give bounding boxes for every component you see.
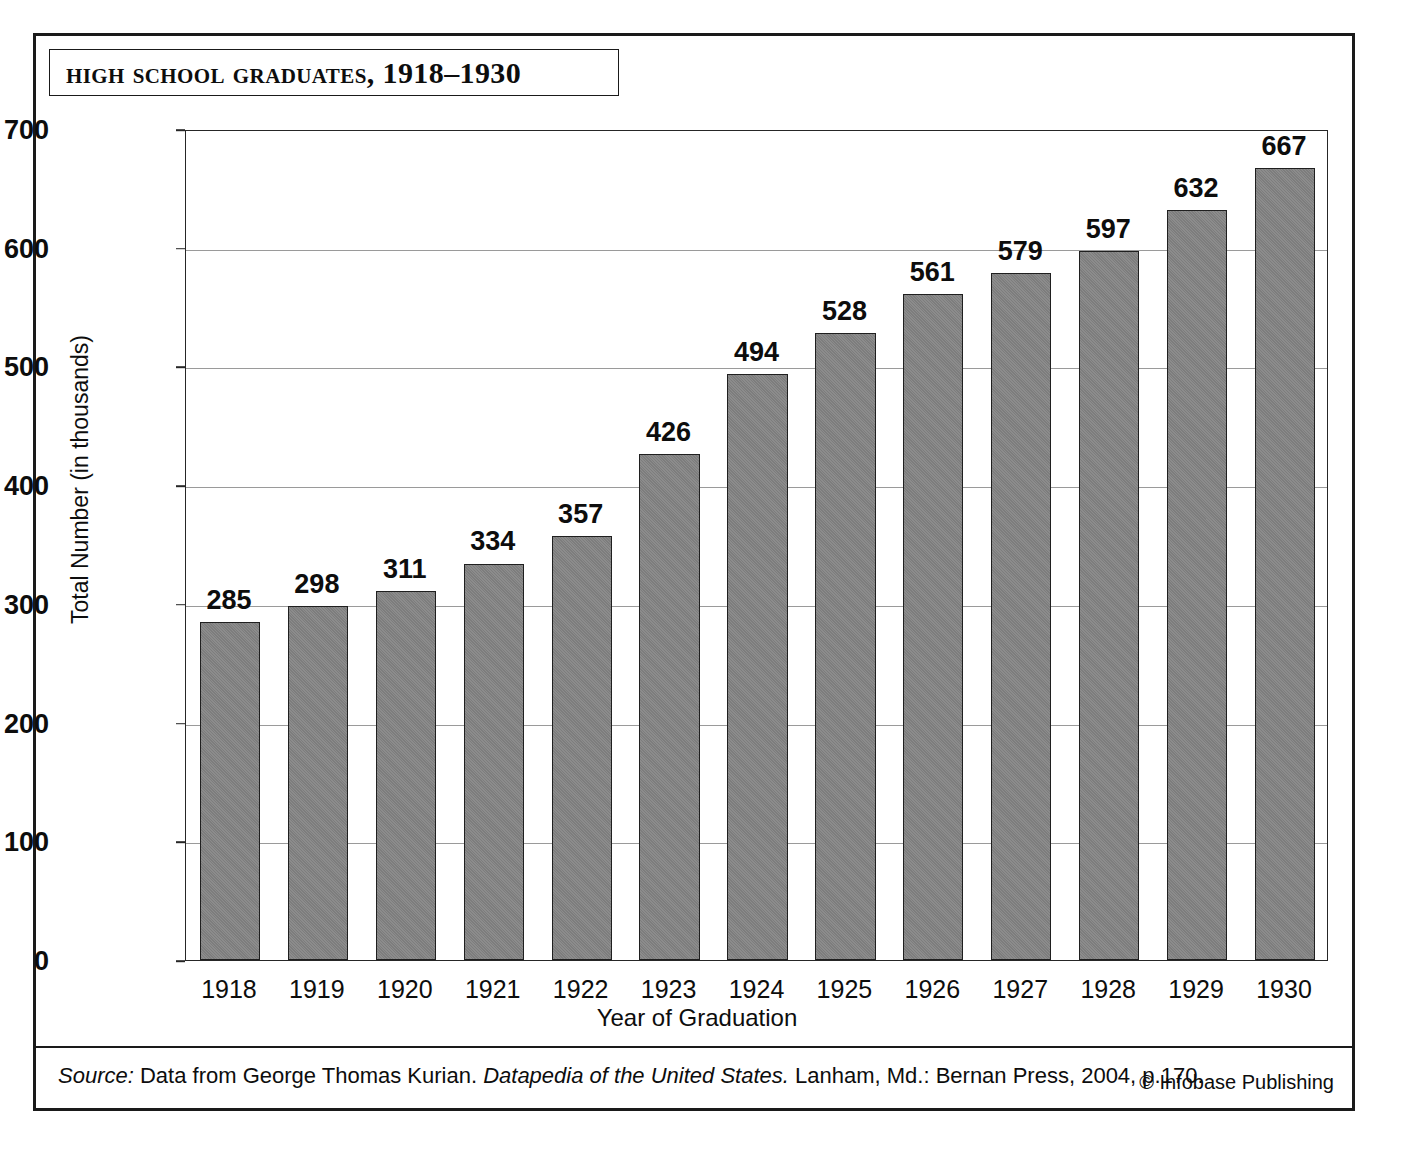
x-tick-label-1930: 1930 xyxy=(1224,975,1344,1004)
gridline xyxy=(186,368,1327,369)
y-tick-label-100: 100 xyxy=(0,827,49,858)
source-book-title: Datapedia of the United States. xyxy=(483,1063,789,1088)
bar-1926[interactable] xyxy=(903,294,963,960)
bar-1919[interactable] xyxy=(288,606,348,960)
y-axis-title: Total Number (in thousands) xyxy=(67,280,94,680)
bar-value-1922: 357 xyxy=(521,499,641,530)
y-tick-mark-700 xyxy=(176,129,185,131)
source-note: Source: Data from George Thomas Kurian. … xyxy=(58,1063,1204,1089)
bar-1923[interactable] xyxy=(639,454,699,960)
figure-frame: High School Graduates, 1918–1930 Total N… xyxy=(33,33,1355,1111)
bar-value-1921: 334 xyxy=(433,526,553,557)
bar-1929[interactable] xyxy=(1167,210,1227,960)
page-title: High School Graduates, 1918–1930 xyxy=(66,56,521,90)
bar-1924[interactable] xyxy=(727,374,787,960)
y-tick-label-300: 300 xyxy=(0,589,49,620)
y-tick-label-200: 200 xyxy=(0,708,49,739)
bar-1920[interactable] xyxy=(376,591,436,960)
y-tick-mark-200 xyxy=(176,723,185,725)
bar-1930[interactable] xyxy=(1255,168,1315,960)
y-tick-label-400: 400 xyxy=(0,471,49,502)
bar-value-1923: 426 xyxy=(609,417,729,448)
y-tick-mark-0 xyxy=(176,960,185,962)
bar-1918[interactable] xyxy=(200,622,260,960)
bar-value-1929: 632 xyxy=(1136,173,1256,204)
bar-1921[interactable] xyxy=(464,564,524,961)
chart-title-box: High School Graduates, 1918–1930 xyxy=(49,49,619,96)
bar-1922[interactable] xyxy=(552,536,612,960)
source-author: Data from George Thomas Kurian. xyxy=(134,1063,483,1088)
y-tick-mark-500 xyxy=(176,367,185,369)
bar-1925[interactable] xyxy=(815,333,875,960)
footer-divider xyxy=(36,1046,1352,1048)
source-label: Source: xyxy=(58,1063,134,1088)
plot-area xyxy=(185,130,1328,961)
bar-value-1920: 311 xyxy=(345,554,465,585)
bar-value-1925: 528 xyxy=(784,296,904,327)
bar-value-1930: 667 xyxy=(1224,131,1344,162)
y-tick-label-700: 700 xyxy=(0,115,49,146)
copyright-notice: © Infobase Publishing xyxy=(1139,1071,1334,1094)
y-tick-mark-400 xyxy=(176,485,185,487)
bar-value-1924: 494 xyxy=(697,337,817,368)
gridline xyxy=(186,250,1327,251)
y-tick-label-0: 0 xyxy=(0,946,49,977)
bar-1928[interactable] xyxy=(1079,251,1139,960)
bar-1927[interactable] xyxy=(991,273,1051,960)
y-tick-mark-600 xyxy=(176,248,185,250)
x-axis-title: Year of Graduation xyxy=(36,1004,1358,1032)
y-tick-label-600: 600 xyxy=(0,233,49,264)
bar-value-1928: 597 xyxy=(1048,214,1168,245)
y-tick-label-500: 500 xyxy=(0,352,49,383)
y-tick-mark-100 xyxy=(176,841,185,843)
